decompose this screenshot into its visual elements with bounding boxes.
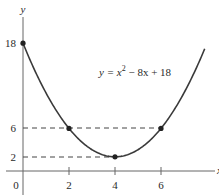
x-axis-label: x (216, 164, 219, 176)
x-tick-label-2: 2 (66, 179, 72, 191)
data-point (112, 154, 117, 159)
y-tick-label-6: 6 (11, 122, 17, 134)
marked-points (20, 41, 163, 160)
equation-label: y = x2 − 8x + 18 (98, 64, 172, 78)
parabola-chart: 0 2 4 6 2 6 18 y x y = x2 − 8x + 18 (0, 0, 219, 195)
y-tick-label-18: 18 (5, 37, 17, 49)
data-point (20, 41, 25, 46)
y-tick-label-2: 2 (11, 151, 17, 163)
parabola-curve (23, 43, 205, 157)
data-point (66, 126, 71, 131)
equation-rhs: − 8x + 18 (126, 66, 172, 78)
data-point (158, 126, 163, 131)
x-tick-label-6: 6 (158, 179, 164, 191)
x-tick-label-0: 0 (13, 179, 19, 191)
x-tick-label-4: 4 (112, 179, 118, 191)
equation-lhs: y = x (98, 66, 122, 78)
y-axis-label: y (20, 3, 26, 15)
